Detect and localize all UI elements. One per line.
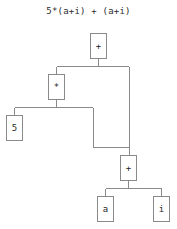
node-plus-root[interactable]: + [90,33,107,59]
node-label: i [159,205,164,214]
node-label: 5 [12,124,17,133]
node-times[interactable]: * [48,74,65,100]
tree-edges [0,0,177,229]
node-label: * [54,83,59,92]
node-label: + [96,42,101,51]
node-label: + [126,164,131,173]
node-plus-sub[interactable]: + [120,155,137,181]
node-five[interactable]: 5 [6,115,23,141]
edge-times-to-plussub [93,108,129,148]
node-i[interactable]: i [153,196,170,222]
diagram-canvas: 5*(a+i) + (a+i) + [0,0,177,229]
node-a[interactable]: a [97,196,114,222]
node-label: a [103,205,108,214]
